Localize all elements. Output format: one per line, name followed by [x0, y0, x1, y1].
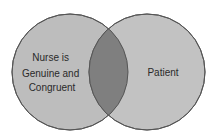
patient-label: Patient [147, 67, 178, 78]
venn-diagram: Nurse is Genuine and Congruent Patient [0, 0, 214, 138]
